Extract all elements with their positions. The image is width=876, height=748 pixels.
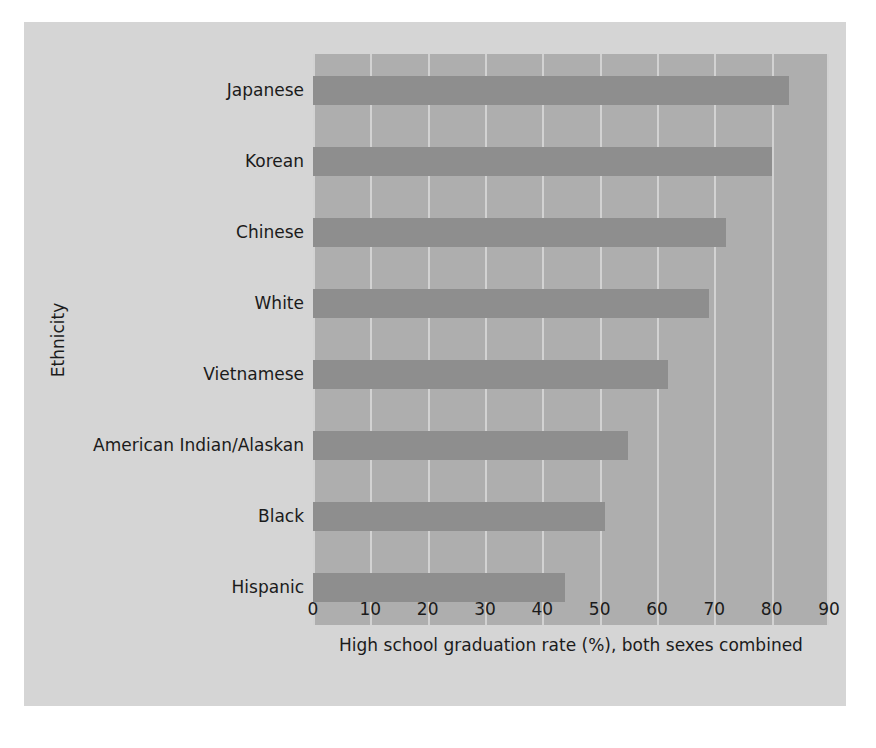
x-tick-label-80: 80: [761, 599, 783, 619]
y-tick-label-white: White: [255, 289, 304, 318]
bar-black: Black: [313, 502, 605, 531]
gridline-60: [657, 54, 659, 625]
x-axis-title: High school graduation rate (%), both se…: [313, 635, 829, 655]
x-tick-label-40: 40: [531, 599, 553, 619]
x-tick-label-30: 30: [474, 599, 496, 619]
plot-area: Japanese Korean Chinese White Vietnamese…: [313, 54, 829, 625]
bar-korean: Korean: [313, 147, 772, 176]
gridline-30: [485, 54, 487, 625]
y-tick-label-korean: Korean: [245, 147, 304, 176]
bar-vietnamese: Vietnamese: [313, 360, 668, 389]
x-tick-label-70: 70: [703, 599, 725, 619]
y-tick-label-chinese: Chinese: [236, 218, 304, 247]
x-tick-label-60: 60: [646, 599, 668, 619]
bar-american-indian-alaskan: American Indian/Alaskan: [313, 431, 628, 460]
y-tick-label-american-indian-alaskan: American Indian/Alaskan: [93, 431, 304, 460]
gridline-40: [542, 54, 544, 625]
x-tick-label-90: 90: [818, 599, 840, 619]
gridline-70: [714, 54, 716, 625]
y-tick-label-vietnamese: Vietnamese: [203, 360, 304, 389]
bar-hispanic: Hispanic: [313, 573, 565, 602]
x-tick-label-50: 50: [589, 599, 611, 619]
gridline-20: [428, 54, 430, 625]
y-axis-title: Ethnicity: [48, 303, 68, 377]
y-tick-label-japanese: Japanese: [227, 76, 304, 105]
bar-white: White: [313, 289, 709, 318]
y-tick-label-black: Black: [258, 502, 304, 531]
x-tick-label-10: 10: [359, 599, 381, 619]
bar-chinese: Chinese: [313, 218, 726, 247]
bar-japanese: Japanese: [313, 76, 789, 105]
gridline-90: [827, 54, 829, 625]
gridline-80: [772, 54, 774, 625]
gridline-10: [370, 54, 372, 625]
gridline-0: [313, 54, 315, 625]
x-tick-label-20: 20: [417, 599, 439, 619]
chart-figure: Ethnicity Japanese Korean Chinese White …: [24, 22, 846, 706]
gridline-50: [600, 54, 602, 625]
y-tick-label-hispanic: Hispanic: [232, 573, 304, 602]
x-tick-label-0: 0: [308, 599, 319, 619]
